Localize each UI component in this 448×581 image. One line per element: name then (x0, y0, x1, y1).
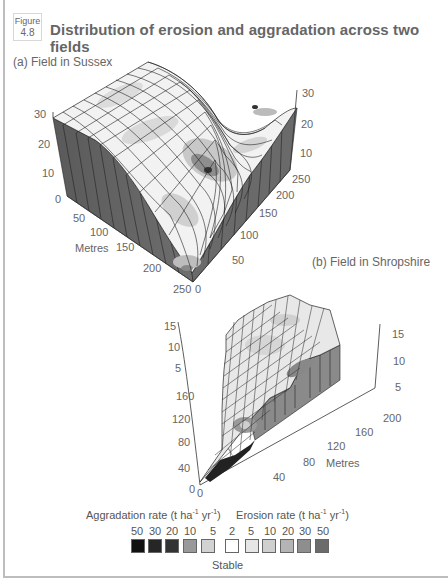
sussex-z-right-30: 30 (302, 87, 314, 99)
swatch-erosion-5 (245, 539, 259, 553)
swatch-aggradation-20 (165, 539, 179, 553)
shropshire-z-right-5: 5 (395, 381, 401, 393)
swatch-erosion-20 (280, 539, 294, 553)
sussex-y-tick-150: 150 (259, 207, 277, 219)
legend-label: 10 (184, 525, 196, 537)
legend-label: 20 (166, 525, 178, 537)
shropshire-z-tick-5: 5 (175, 362, 181, 374)
legend-label: 50 (131, 525, 143, 537)
shropshire-x-tick-160: 160 (355, 426, 373, 438)
sussex-z-tick-0: 0 (55, 193, 61, 205)
sussex-y-tick-200: 200 (276, 189, 294, 201)
swatch-erosion-50 (315, 539, 329, 553)
legend-label: 5 (248, 525, 254, 537)
legend-headings: Aggradation rate (t ha-1 yr-1) Erosion r… (86, 508, 349, 521)
swatch-aggradation-5 (201, 539, 215, 553)
legend-label: 30 (299, 525, 311, 537)
legend-label: 20 (282, 525, 294, 537)
shropshire-origin-left: 0 (189, 483, 195, 495)
legend-label: 30 (149, 525, 161, 537)
erosion-heading: Erosion rate (t ha-1 yr-1) (236, 509, 349, 521)
shropshire-z-right-10: 10 (393, 355, 405, 367)
sussex-y-tick-50: 50 (232, 254, 244, 266)
legend-label: 50 (317, 525, 329, 537)
sussex-y-tick-0: 0 (195, 283, 201, 295)
shropshire-x-tick-40: 40 (273, 471, 285, 483)
sussex-z-right-20: 20 (301, 118, 313, 130)
sussex-z-tick-20: 20 (38, 138, 50, 150)
sussex-x-tick-100: 100 (90, 226, 108, 238)
shropshire-y-tick-120: 120 (172, 413, 190, 425)
shropshire-x-label: Metres (326, 457, 360, 469)
sussex-x-tick-50: 50 (73, 212, 85, 224)
swatch-aggradation-50 (131, 539, 145, 553)
shropshire-z-right-15: 15 (392, 328, 404, 340)
shropshire-x-tick-200: 200 (383, 412, 401, 424)
swatch-erosion-10 (262, 539, 276, 553)
sussex-x-label: Metres (75, 242, 109, 254)
sussex-z-tick-30: 30 (34, 108, 46, 120)
swatch-aggradation-10 (183, 539, 197, 553)
sussex-z-tick-10: 10 (42, 167, 54, 179)
sussex-z-right-10: 10 (300, 147, 312, 159)
sussex-surface-plot: 30 20 10 0 50 100 Metres 150 200 250 0 5… (34, 62, 314, 295)
swatch-stable (225, 539, 239, 553)
sussex-y-tick-250: 250 (292, 173, 310, 185)
sussex-x-tick-250: 250 (173, 283, 191, 295)
legend-label: 10 (264, 525, 276, 537)
swatch-erosion-30 (297, 539, 311, 553)
sussex-x-tick-200: 200 (143, 262, 161, 274)
shropshire-y-tick-80: 80 (178, 436, 190, 448)
shropshire-surface-plot: 15 10 5 160 120 80 40 0 0 40 80 120 160 … (164, 295, 405, 499)
shropshire-z-tick-10: 10 (168, 341, 180, 353)
shropshire-x-tick-80: 80 (303, 456, 315, 468)
shropshire-y-tick-40: 40 (178, 462, 190, 474)
sussex-x-tick-150: 150 (116, 241, 134, 253)
surface-plots: 30 20 10 0 50 100 Metres 150 200 250 0 5… (0, 0, 448, 581)
stable-label: Stable (212, 559, 243, 571)
sussex-y-tick-100: 100 (240, 229, 258, 241)
shropshire-origin-right: 0 (197, 487, 203, 499)
aggradation-heading: Aggradation rate (t ha-1 yr-1) (86, 509, 221, 521)
shropshire-x-tick-120: 120 (327, 440, 345, 452)
legend-label: 2 (229, 525, 235, 537)
shropshire-z-tick-15: 15 (164, 320, 176, 332)
swatch-aggradation-30 (148, 539, 162, 553)
shropshire-y-tick-160: 160 (176, 390, 194, 402)
legend-label: 5 (210, 525, 216, 537)
